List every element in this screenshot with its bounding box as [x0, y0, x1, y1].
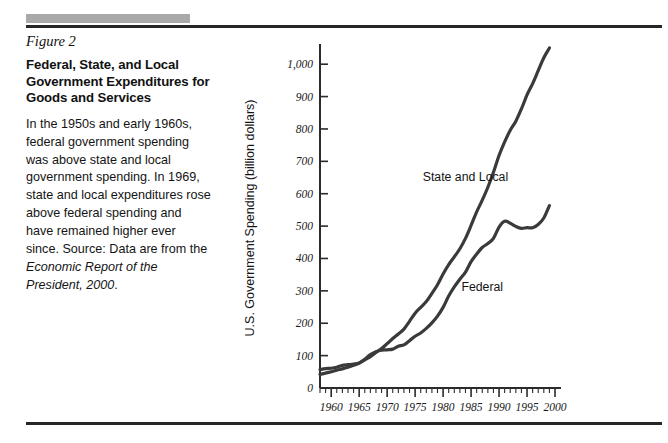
- series-label-federal: Federal: [461, 280, 503, 294]
- y-tick-label: 0: [307, 382, 313, 394]
- caption-text-lead: In the 1950s and early 1960s, federal go…: [26, 117, 211, 256]
- x-tick-label: 1975: [404, 401, 427, 413]
- y-tick-label: 100: [296, 350, 314, 362]
- y-tick-label: 800: [296, 123, 314, 135]
- figure-number-label: Figure 2: [26, 34, 211, 50]
- chart-container: 01002003004005006007008009001,000 196019…: [232, 28, 652, 416]
- x-tick-label: 1960: [320, 401, 343, 413]
- caption-text-tail: .: [114, 278, 118, 292]
- y-tick-label: 1,000: [287, 58, 313, 71]
- figure-title: Federal, State, and Local Government Exp…: [26, 57, 211, 107]
- y-axis-title: U.S. Government Spending (billion dollar…: [243, 100, 257, 337]
- x-tick-label: 1980: [432, 401, 455, 413]
- y-tick-label: 500: [296, 220, 314, 232]
- y-tick-label: 400: [296, 252, 314, 264]
- caption-source-title: Economic Report of the President, 2000: [26, 260, 158, 292]
- y-tick-label: 900: [296, 91, 314, 103]
- x-tick-label: 1990: [488, 401, 511, 413]
- x-tick-label: 1965: [348, 401, 371, 413]
- series-label-state-and-local: State and Local: [423, 170, 508, 184]
- y-tick-label: 600: [296, 188, 314, 200]
- x-tick-label: 2000: [544, 401, 567, 413]
- y-axis-ticks: 01002003004005006007008009001,000: [287, 58, 328, 394]
- x-tick-label: 1985: [460, 401, 483, 413]
- data-series-group: [320, 48, 549, 374]
- x-tick-label: 1995: [516, 401, 539, 413]
- y-tick-label: 300: [295, 285, 314, 297]
- line-chart: 01002003004005006007008009001,000 196019…: [232, 28, 652, 416]
- x-tick-label: 1970: [376, 401, 399, 413]
- y-tick-label: 200: [296, 317, 314, 329]
- figure-description: In the 1950s and early 1960s, federal go…: [26, 116, 211, 295]
- header-accent-bar: [26, 14, 190, 23]
- series-line-state-and-local: [320, 48, 549, 374]
- x-axis-ticks: 196019651970197519801985199019952000: [320, 388, 567, 413]
- y-tick-label: 700: [296, 155, 314, 167]
- figure-caption-block: Figure 2 Federal, State, and Local Gover…: [26, 34, 211, 295]
- bottom-divider-rule: [26, 422, 662, 425]
